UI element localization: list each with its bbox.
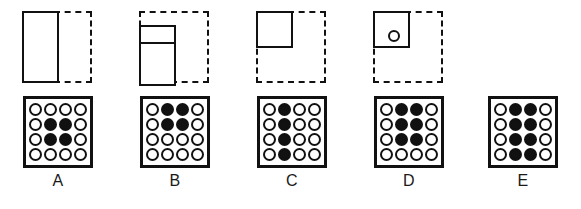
filled-circle: [161, 118, 174, 131]
empty-circle: [308, 103, 321, 116]
grid-row: [380, 102, 438, 117]
empty-circle: [494, 133, 507, 146]
filled-circle: [59, 133, 72, 146]
filled-circle: [509, 103, 522, 116]
filled-circle: [509, 118, 522, 131]
circle-grid[interactable]: [140, 96, 210, 168]
filled-circle: [278, 133, 291, 146]
empty-circle: [539, 148, 552, 161]
empty-circle: [191, 133, 204, 146]
grid-rows: [29, 102, 87, 162]
filled-circle: [395, 118, 408, 131]
empty-circle: [425, 148, 438, 161]
empty-circle: [539, 118, 552, 131]
solid-rectangle-lower-left: [139, 25, 176, 86]
empty-circle: [293, 148, 306, 161]
option-panel-a[interactable]: A: [0, 0, 116, 209]
option-panel-d[interactable]: D: [351, 0, 467, 209]
filled-circle: [524, 118, 537, 131]
filled-circle: [176, 103, 189, 116]
grid-row: [494, 132, 552, 147]
filled-circle: [44, 133, 57, 146]
filled-circle: [176, 118, 189, 131]
filled-circle: [410, 118, 423, 131]
empty-circle: [263, 148, 276, 161]
empty-circle: [539, 103, 552, 116]
empty-circle: [161, 148, 174, 161]
empty-circle: [494, 118, 507, 131]
horizontal-divider-line: [141, 42, 174, 44]
empty-circle: [74, 103, 87, 116]
grid-row: [380, 117, 438, 132]
empty-circle: [425, 133, 438, 146]
filled-circle: [395, 103, 408, 116]
empty-circle: [494, 103, 507, 116]
empty-circle: [146, 103, 159, 116]
option-panel-e[interactable]: E: [465, 0, 581, 209]
grid-row: [494, 147, 552, 162]
circle-grid[interactable]: [257, 96, 327, 168]
solid-square-top-left: [373, 11, 410, 48]
grid-rows: [494, 102, 552, 162]
empty-circle: [74, 133, 87, 146]
grid-area-a: A: [0, 96, 116, 209]
grid-row: [380, 147, 438, 162]
grid-row: [29, 102, 87, 117]
figure-area-d: [351, 0, 467, 95]
empty-circle: [146, 148, 159, 161]
filled-circle: [410, 103, 423, 116]
empty-circle: [44, 148, 57, 161]
grid-area-c: C: [234, 96, 350, 209]
grid-area-b: B: [117, 96, 233, 209]
empty-circle: [380, 118, 393, 131]
grid-area-e: E: [465, 96, 581, 209]
grid-row: [146, 117, 204, 132]
empty-circle: [29, 103, 42, 116]
empty-circle: [176, 133, 189, 146]
circle-grid[interactable]: [23, 96, 93, 168]
empty-circle: [293, 118, 306, 131]
empty-circle: [494, 148, 507, 161]
option-panel-b[interactable]: B: [117, 0, 233, 209]
empty-circle: [263, 118, 276, 131]
figure-area-b: [117, 0, 233, 95]
circle-grid[interactable]: [374, 96, 444, 168]
small-circle-icon: [388, 30, 400, 42]
filled-circle: [278, 148, 291, 161]
option-panel-c[interactable]: C: [234, 0, 350, 209]
empty-circle: [161, 133, 174, 146]
filled-circle: [509, 133, 522, 146]
grid-rows: [380, 102, 438, 162]
figure-area-e: [465, 0, 581, 95]
empty-circle: [263, 133, 276, 146]
figure-area-c: [234, 0, 350, 95]
filled-circle: [59, 118, 72, 131]
grid-row: [263, 147, 321, 162]
filled-circle: [278, 103, 291, 116]
empty-circle: [191, 148, 204, 161]
empty-circle: [146, 118, 159, 131]
empty-circle: [59, 148, 72, 161]
grid-row: [263, 117, 321, 132]
empty-circle: [410, 148, 423, 161]
grid-row: [494, 117, 552, 132]
grid-row: [29, 132, 87, 147]
empty-circle: [308, 148, 321, 161]
solid-square-top-left: [256, 11, 293, 48]
empty-circle: [293, 103, 306, 116]
empty-circle: [425, 103, 438, 116]
filled-circle: [44, 118, 57, 131]
empty-circle: [380, 148, 393, 161]
filled-circle: [395, 133, 408, 146]
circle-grid[interactable]: [488, 96, 558, 168]
filled-circle: [524, 148, 537, 161]
option-label-b: B: [117, 172, 233, 190]
grid-row: [263, 132, 321, 147]
empty-circle: [29, 118, 42, 131]
empty-circle: [29, 148, 42, 161]
filled-circle: [410, 133, 423, 146]
filled-circle: [509, 148, 522, 161]
empty-circle: [380, 133, 393, 146]
option-label-a: A: [0, 172, 116, 190]
empty-circle: [380, 103, 393, 116]
